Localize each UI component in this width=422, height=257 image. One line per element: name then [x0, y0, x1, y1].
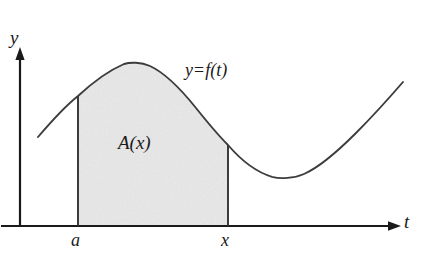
area-function-label: A(x) — [118, 133, 151, 152]
function-equation-rhs: f(t) — [205, 60, 227, 80]
function-equation-label: y=f(t) — [185, 61, 227, 79]
t-axis-label: t — [404, 212, 409, 231]
function-equation-lhs: y — [185, 60, 193, 80]
y-axis-label: y — [10, 28, 18, 47]
function-equation-equals: = — [193, 60, 205, 80]
figure-canvas — [0, 0, 422, 257]
lower-limit-label-a: a — [71, 231, 80, 249]
t-axis-arrowhead-icon — [388, 221, 401, 231]
area-function-figure: y t a x A(x) y=f(t) — [0, 0, 422, 257]
y-axis-arrowhead-icon — [15, 47, 24, 60]
shaded-area-region — [78, 63, 228, 226]
upper-limit-label-x: x — [221, 231, 229, 249]
